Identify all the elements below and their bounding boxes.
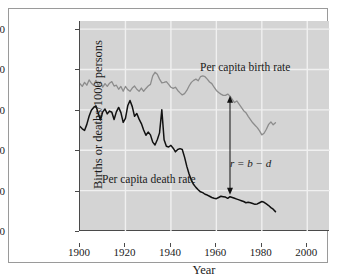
y-tick-label: 10 — [0, 186, 5, 196]
x-tick-mark — [170, 243, 171, 247]
y-tick-label: 0 — [0, 226, 5, 236]
figure-frame: Per capita birth rate Per capita death r… — [8, 8, 328, 263]
plot-area: Per capita birth rate Per capita death r… — [79, 21, 329, 231]
x-tick-mark — [79, 243, 80, 247]
rate-difference-arrow — [227, 96, 233, 195]
y-tick-label: 20 — [0, 145, 5, 155]
rate-equation-annotation: r = b − d — [230, 157, 271, 169]
y-tick-label: 40 — [0, 64, 5, 74]
y-tick-label: 50 — [0, 24, 5, 34]
x-axis-label: Year — [79, 263, 329, 278]
x-tick-label: 1980 — [241, 247, 281, 258]
x-tick-mark — [124, 243, 125, 247]
y-tick-mark — [75, 150, 79, 151]
birth-rate-annotation: Per capita birth rate — [200, 61, 290, 73]
y-tick-mark — [75, 110, 79, 111]
y-tick-mark — [75, 29, 79, 30]
y-axis-label: Births or deaths/1000 persons — [91, 10, 106, 220]
y-tick-mark — [75, 191, 79, 192]
x-tick-mark — [261, 243, 262, 247]
chart-svg — [80, 21, 330, 231]
gridlines — [80, 21, 330, 231]
x-tick-mark — [306, 243, 307, 247]
x-tick-label: 1900 — [59, 247, 99, 258]
y-tick-label: 30 — [0, 105, 5, 115]
death-rate-annotation: Per capita death rate — [102, 173, 196, 185]
x-tick-label: 2000 — [286, 247, 326, 258]
x-tick-mark — [215, 243, 216, 247]
plot-wrapper: Per capita birth rate Per capita death r… — [79, 21, 329, 231]
series-line — [80, 72, 275, 135]
x-tick-label: 1920 — [104, 247, 144, 258]
y-tick-mark — [75, 231, 79, 232]
x-tick-label: 1960 — [195, 247, 235, 258]
x-tick-label: 1940 — [150, 247, 190, 258]
y-tick-mark — [75, 69, 79, 70]
